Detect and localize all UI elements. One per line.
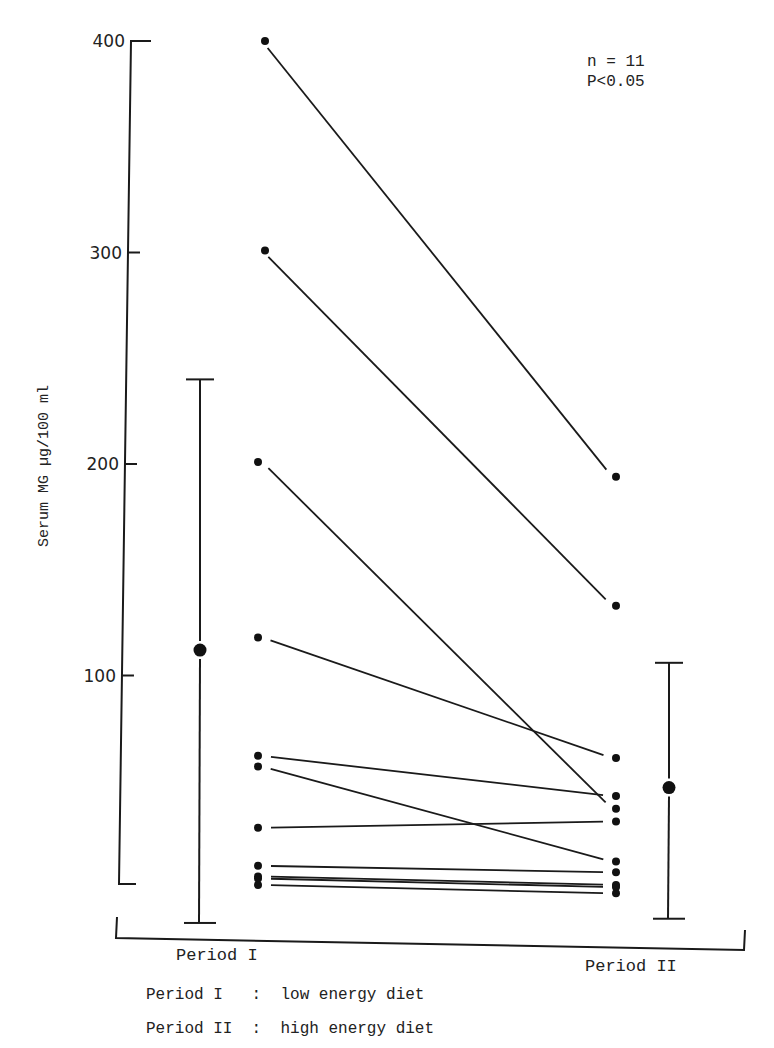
subject-line bbox=[271, 640, 604, 755]
y-tick-label: 200 bbox=[87, 454, 119, 474]
period-1-point bbox=[254, 762, 262, 770]
period-2-point bbox=[612, 805, 620, 813]
y-tick-label: 300 bbox=[90, 243, 122, 263]
sample-size-annotation: n = 11 bbox=[587, 52, 645, 72]
period-2-point bbox=[612, 792, 620, 800]
paired-line-chart: 100200300400 bbox=[0, 0, 774, 1048]
period-1-point bbox=[254, 824, 262, 832]
period-1-point bbox=[254, 862, 262, 870]
period-1-point bbox=[254, 633, 262, 641]
x-label-period-2: Period II bbox=[585, 957, 677, 976]
period-2-point bbox=[612, 602, 620, 610]
y-tick-labels: 100200300400 bbox=[84, 31, 125, 686]
period-1-point bbox=[261, 246, 269, 254]
error-bar-lower bbox=[668, 797, 669, 919]
y-tick-label: 400 bbox=[93, 31, 125, 51]
period-1-point bbox=[254, 881, 262, 889]
period-2-point bbox=[612, 889, 620, 897]
y-axis bbox=[119, 41, 151, 884]
period-1-point bbox=[261, 37, 269, 45]
period-2-point bbox=[612, 817, 620, 825]
subject-points bbox=[254, 37, 620, 897]
subject-line bbox=[268, 257, 605, 599]
subject-lines bbox=[268, 48, 607, 893]
y-tick-label: 100 bbox=[84, 666, 116, 686]
mean-marker bbox=[194, 644, 207, 657]
mean-marker bbox=[663, 781, 676, 794]
x-label-period-1: Period I bbox=[176, 946, 258, 965]
period-2-point bbox=[612, 868, 620, 876]
subject-line bbox=[271, 757, 603, 795]
legend-period-1: Period I : low energy diet bbox=[146, 986, 424, 1004]
error-bar-lower bbox=[199, 659, 200, 923]
subject-line bbox=[268, 48, 607, 470]
period-2-point bbox=[612, 473, 620, 481]
subject-line bbox=[268, 468, 605, 802]
period-2-point bbox=[612, 858, 620, 866]
y-axis-label: Serum MG µg/100 ml bbox=[36, 385, 53, 547]
y-axis-line bbox=[119, 41, 151, 884]
legend-period-2: Period II : high energy diet bbox=[146, 1020, 434, 1038]
subject-line bbox=[271, 866, 603, 872]
subject-line bbox=[271, 822, 603, 828]
period-1-point bbox=[254, 752, 262, 760]
p-value-annotation: P<0.05 bbox=[587, 72, 645, 92]
subject-line bbox=[271, 769, 604, 859]
period-1-point bbox=[254, 458, 262, 466]
period-2-point bbox=[612, 754, 620, 762]
